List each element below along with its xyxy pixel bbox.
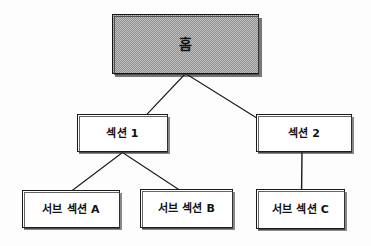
node-section-1[interactable]: 섹션 1 — [77, 114, 168, 152]
edge-section-1-to-sub-b — [123, 153, 182, 192]
node-sub-section-c-label: 서브 섹션 C — [272, 204, 329, 215]
node-sub-section-c[interactable]: 서브 섹션 C — [256, 189, 345, 229]
node-section-1-label: 섹션 1 — [106, 128, 138, 139]
node-section-2-label: 섹션 2 — [288, 128, 320, 139]
node-home[interactable]: 홈 — [112, 14, 259, 74]
node-sub-section-a-label: 서브 섹션 A — [42, 204, 100, 215]
node-home-label: 홈 — [179, 37, 192, 51]
node-section-2[interactable]: 섹션 2 — [256, 114, 352, 152]
edge-section-1-to-sub-a — [72, 153, 123, 192]
node-sub-section-b-label: 서브 섹션 B — [158, 203, 215, 214]
edge-home-to-section-1 — [123, 74, 186, 118]
sitemap-diagram: 홈 섹션 1 섹션 2 서브 섹션 A 서브 섹션 B 서브 섹션 C — [0, 0, 371, 246]
node-sub-section-b[interactable]: 서브 섹션 B — [140, 189, 233, 228]
node-sub-section-a[interactable]: 서브 섹션 A — [22, 190, 120, 228]
